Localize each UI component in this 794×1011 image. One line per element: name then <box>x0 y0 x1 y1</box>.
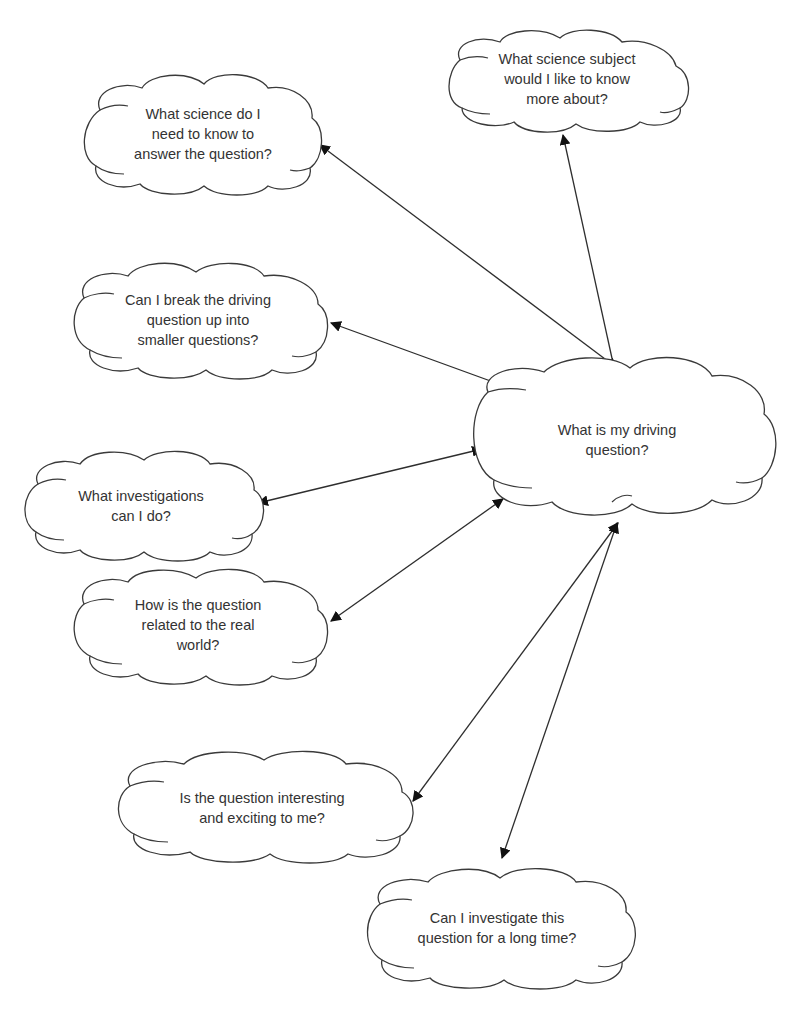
cloud-label-science-subject: What science subject would I like to kno… <box>498 49 635 109</box>
label-line: and exciting to me? <box>179 808 344 828</box>
cloud-label-real-world: How is the question related to the real … <box>135 595 262 655</box>
label-line: would I like to know <box>498 69 635 89</box>
cloud-label-science-needed: What science do I need to know to answer… <box>134 104 272 164</box>
cloud-label-investigations: What investigations can I do? <box>78 486 204 526</box>
label-line: more about? <box>498 89 635 109</box>
connector-real-world-to-driving-question <box>331 499 503 621</box>
label-line: Can I investigate this <box>418 908 577 928</box>
label-line: What is my driving <box>558 420 676 440</box>
label-line: smaller questions? <box>125 330 271 350</box>
label-line: question? <box>558 440 676 460</box>
label-line: question for a long time? <box>418 928 577 948</box>
cloud-label-interesting: Is the question interesting and exciting… <box>179 788 344 828</box>
label-line: Can I break the driving <box>125 290 271 310</box>
label-line: What science do I <box>134 104 272 124</box>
label-line: Is the question interesting <box>179 788 344 808</box>
label-line: How is the question <box>135 595 262 615</box>
label-line: related to the real <box>135 615 262 635</box>
label-line: answer the question? <box>134 144 272 164</box>
cloud-label-break-up: Can I break the driving question up into… <box>125 290 271 350</box>
label-line: need to know to <box>134 124 272 144</box>
label-line: What investigations <box>78 486 204 506</box>
label-line: world? <box>135 635 262 655</box>
cloud-label-driving-question: What is my driving question? <box>558 420 676 460</box>
label-line: can I do? <box>78 506 204 526</box>
connector-investigations-to-driving-question <box>258 449 482 503</box>
connector-long-time-to-driving-question <box>502 523 617 858</box>
connector-interesting-to-driving-question <box>413 523 618 801</box>
cloud-label-long-time: Can I investigate this question for a lo… <box>418 908 577 948</box>
connector-science-subject-to-driving-question <box>563 135 615 372</box>
label-line: question up into <box>125 310 271 330</box>
label-line: What science subject <box>498 49 635 69</box>
connector-break-up-to-driving-question <box>331 323 507 387</box>
